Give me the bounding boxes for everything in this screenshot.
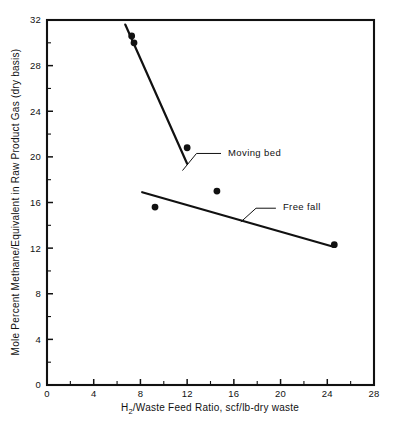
x-tick-label: 0 [44,388,49,399]
x-tick-label: 20 [275,388,286,399]
y-tick-label: 28 [30,60,41,71]
y-tick-label: 12 [30,243,41,254]
x-tick-label: 28 [369,388,380,399]
annotation-label: Moving bed [228,147,281,158]
y-tick-label: 20 [30,151,41,162]
x-tick-label: 4 [91,388,96,399]
x-tick-label: 16 [228,388,239,399]
data-point-moving-bed [128,33,135,40]
data-point-moving-bed [131,39,138,46]
scatter-plot-svg: 048121620242832 0481216202428 Moving bed… [0,0,395,427]
y-tick-label: 8 [36,288,41,299]
y-tick-label: 16 [30,197,41,208]
y-tick-label: 0 [36,379,41,390]
chart-figure: 048121620242832 0481216202428 Moving bed… [0,0,395,427]
y-tick-label: 4 [36,334,41,345]
y-axis-title: Mole Percent Methane/Equivalent in Raw P… [10,49,21,356]
x-tick-label: 24 [322,388,333,399]
data-point-free-fall [152,204,159,211]
data-point-free-fall [214,188,221,195]
data-point-moving-bed [184,144,191,151]
y-tick-label: 24 [30,106,41,117]
data-point-free-fall [331,241,338,248]
y-tick-label: 32 [30,14,41,25]
x-tick-label: 8 [138,388,143,399]
x-tick-label: 12 [182,388,193,399]
chart-background [0,0,395,427]
annotation-label: Free fall [283,201,321,212]
